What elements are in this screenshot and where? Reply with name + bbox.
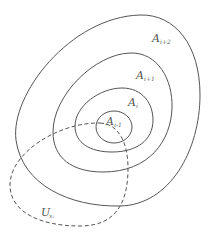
nested-sets-diagram: A i+2 A i+1 A i A i-1 U xᵢ	[0, 0, 216, 240]
svg-text:i: i	[136, 102, 138, 109]
label-u-xi: U xᵢ	[41, 206, 54, 219]
label-a-i-minus-1: A i-1	[105, 115, 122, 128]
label-a-i-plus-1: A i+1	[135, 69, 155, 82]
svg-text:xᵢ: xᵢ	[49, 212, 54, 219]
svg-text:A: A	[127, 96, 136, 109]
svg-text:A: A	[151, 32, 160, 45]
svg-text:i-1: i-1	[114, 121, 122, 128]
svg-text:i+2: i+2	[160, 38, 171, 45]
set-a-i-plus-1-boundary	[53, 53, 172, 172]
neighborhood-u-xi-boundary	[10, 123, 128, 226]
label-a-i-plus-2: A i+2	[151, 32, 171, 45]
set-a-i-boundary	[75, 88, 153, 152]
label-a-i: A i	[127, 96, 138, 109]
svg-text:i+1: i+1	[144, 75, 155, 82]
svg-text:A: A	[105, 115, 114, 128]
svg-text:A: A	[135, 69, 144, 82]
